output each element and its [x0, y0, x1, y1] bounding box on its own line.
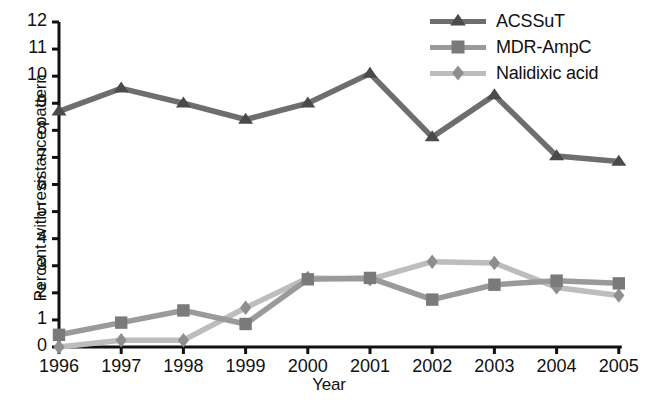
legend-swatch-acssut: [430, 9, 486, 33]
x-tick-label: 1998: [152, 356, 214, 377]
x-axis-title: Year: [0, 375, 658, 395]
y-tick-label: 0: [7, 335, 47, 356]
legend-label-mdr-ampc: MDR-AmpC: [486, 37, 591, 58]
y-axis-title: Percent with resistance pattern: [31, 43, 51, 333]
legend-item-nalidixic-acid: Nalidixic acid: [430, 60, 656, 86]
line-chart: 0123456789101112 19961997199819992000200…: [0, 0, 658, 400]
x-tick-label: 1997: [90, 356, 152, 377]
triangle-marker-icon: [447, 10, 469, 32]
legend-swatch-mdr-ampc: [430, 35, 486, 59]
x-tick-label: 2001: [339, 356, 401, 377]
x-tick-label: 1999: [215, 356, 277, 377]
legend-swatch-nalidixic-acid: [430, 61, 486, 85]
diamond-marker-icon: [447, 62, 469, 84]
data-series-layer: [52, 67, 627, 355]
legend-label-nalidixic-acid: Nalidixic acid: [486, 63, 598, 84]
square-marker-icon: [447, 36, 469, 58]
x-tick-label: 2004: [526, 356, 588, 377]
x-tick-label: 2002: [401, 356, 463, 377]
x-tick-label: 2000: [277, 356, 339, 377]
x-tick-label: 1996: [28, 356, 90, 377]
legend-label-acssut: ACSSuT: [486, 11, 565, 32]
legend-item-acssut: ACSSuT: [430, 8, 656, 34]
x-tick-label: 2005: [588, 356, 650, 377]
chart-legend: ACSSuT MDR-AmpC Nalidixic acid: [430, 8, 656, 86]
x-tick-label: 2003: [463, 356, 525, 377]
legend-item-mdr-ampc: MDR-AmpC: [430, 34, 656, 60]
y-tick-label: 12: [7, 10, 47, 31]
